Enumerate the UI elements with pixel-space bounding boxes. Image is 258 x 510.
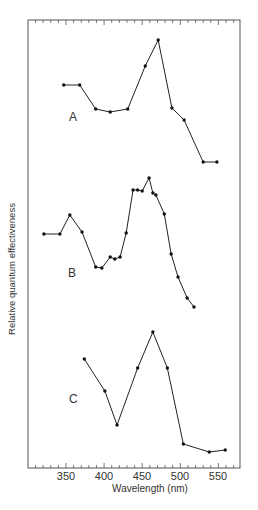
data-point [169, 252, 172, 255]
data-point [94, 107, 97, 110]
data-point [154, 193, 157, 196]
data-point [208, 450, 211, 453]
panel-label-a: A [69, 110, 77, 124]
data-point [100, 266, 103, 269]
data-point [147, 176, 150, 179]
data-point [215, 160, 218, 163]
data-point [124, 231, 127, 234]
data-point [68, 213, 71, 216]
x-tick-400: 400 [89, 470, 119, 482]
data-point [151, 191, 154, 194]
data-point [58, 232, 61, 235]
data-point [113, 257, 116, 260]
data-point [131, 188, 134, 191]
data-point [62, 83, 65, 86]
panel-label-c: C [69, 392, 78, 406]
data-point [192, 305, 195, 308]
data-point [115, 423, 118, 426]
series-line-a [64, 40, 217, 162]
series-line-b [44, 178, 194, 307]
plot-frame [28, 20, 240, 468]
data-point [151, 330, 154, 333]
panel-label-b: B [68, 266, 76, 280]
data-point [141, 189, 144, 192]
x-tick-550: 550 [203, 470, 233, 482]
data-point [80, 230, 83, 233]
data-point [108, 110, 111, 113]
axis-ticks [36, 20, 234, 468]
data-point [163, 212, 166, 215]
x-tick-500: 500 [165, 470, 195, 482]
x-axis-label: Wavelength (nm) [90, 483, 210, 494]
data-point [83, 357, 86, 360]
data-point [182, 442, 185, 445]
data-point [136, 366, 139, 369]
data-point [144, 64, 147, 67]
y-axis-label: Relative quantum effectiveness [6, 194, 20, 344]
x-tick-350: 350 [51, 470, 81, 482]
data-point [201, 160, 204, 163]
data-point [94, 265, 97, 268]
data-point [126, 107, 129, 110]
data-point [170, 106, 173, 109]
x-tick-450: 450 [127, 470, 157, 482]
data-point [224, 448, 227, 451]
data-point [118, 255, 121, 258]
data-point [182, 118, 185, 121]
data-point [108, 255, 111, 258]
data-point [136, 188, 139, 191]
data-point [78, 83, 81, 86]
data-point [103, 389, 106, 392]
data-point [166, 366, 169, 369]
data-point [176, 275, 179, 278]
data-point [157, 38, 160, 41]
chart-plot-area [0, 0, 258, 510]
data-point [185, 296, 188, 299]
data-point [42, 232, 45, 235]
